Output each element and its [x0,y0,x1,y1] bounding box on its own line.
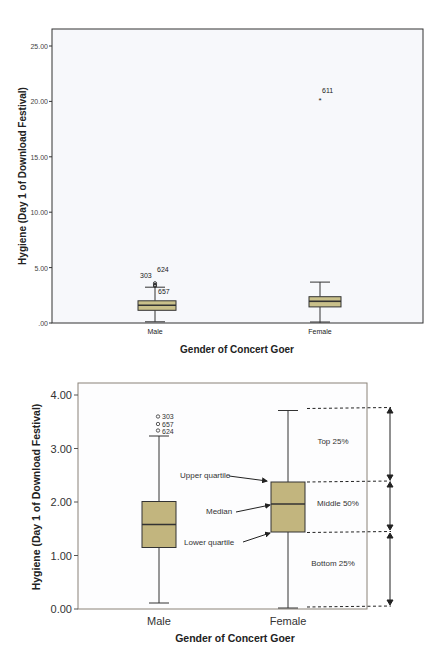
top-plot-area [52,29,423,323]
top-outlier-303: 303 [140,272,152,279]
top-ytick-10: 10.00 [30,209,48,216]
top-boxplot-chart: .00 5.00 10.00 15.00 20.00 25.00 Hygiene… [0,0,442,345]
bottom-ytick-0: 0.00 [51,603,72,615]
bottom-outlier-624: 624 [162,428,174,435]
top-cat-female: Female [308,328,331,335]
top-ytick-15: 15.00 [30,154,48,161]
bottom-y-axis-label: Hygiene (Day 1 of Download Festival) [30,404,42,591]
bottom-cat-male: Male [147,615,171,627]
top-y-axis-label: Hygiene (Day 1 of Download Festival) [17,87,28,265]
top-x-axis-label-visible: Gender of Concert Goer [180,344,294,355]
bottom-outlier-303: 303 [162,413,174,420]
top-outlier-624: 624 [157,266,169,273]
annotation-top-25: Top 25% [317,437,348,446]
bottom-outlier-657: 657 [162,421,174,428]
annotation-upper-quartile: Upper quartile [180,471,231,480]
top-ytick-25: 25.00 [30,43,48,50]
bottom-y-axis: 0.00 1.00 2.00 3.00 4.00 [51,389,78,615]
top-extreme-611-label: 611 [322,87,333,94]
annotation-median: Median [206,507,232,516]
annotation-bottom-25: Bottom 25% [311,559,355,568]
top-cat-male: Male [147,328,162,335]
top-y-axis: .00 5.00 10.00 15.00 20.00 25.00 [30,43,52,327]
bottom-x-axis-label: Gender of Concert Goer [175,632,295,644]
top-ytick-5: 5.00 [34,265,48,272]
bottom-ytick-3: 3.00 [51,443,72,455]
bottom-ytick-1: 1.00 [51,550,72,562]
top-ytick-20: 20.00 [30,98,48,105]
top-ytick-0: .00 [38,320,48,327]
bottom-cat-female: Female [270,615,307,627]
top-outlier-657: 657 [158,288,170,295]
annotation-middle-50: Middle 50% [317,499,359,508]
top-x-label-holder: Gender of Concert Goer [0,340,442,360]
top-extreme-611-marker: * [318,96,321,105]
bottom-ytick-4: 4.00 [51,389,72,401]
annotation-lower-quartile: Lower quartile [184,538,235,547]
bottom-ytick-2: 2.00 [51,496,72,508]
bottom-boxplot-chart: 0.00 1.00 2.00 3.00 4.00 Hygiene (Day 1 … [0,370,442,668]
bottom-plot-area [78,383,367,609]
